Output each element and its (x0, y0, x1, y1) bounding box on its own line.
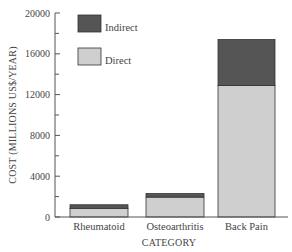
bar-segment-indirect (218, 40, 275, 86)
stacked-bar-chart: 040008000120001600020000 RheumatoidOsteo… (0, 0, 292, 252)
legend-item-direct: Direct (78, 48, 131, 66)
legend-label-direct: Direct (105, 55, 131, 66)
y-tick-label: 16000 (25, 48, 50, 59)
legend-swatch-direct (78, 48, 101, 65)
bar-segment-indirect (70, 205, 128, 209)
y-tick-label: 4000 (30, 171, 50, 182)
y-tick-label: 8000 (30, 130, 50, 141)
bar-rheumatoid (70, 205, 128, 217)
x-tick-label: Back Pain (225, 221, 269, 232)
bars (70, 40, 275, 217)
bar-segment-indirect (146, 194, 204, 198)
y-tick-label: 0 (45, 212, 50, 223)
y-tick-label: 20000 (25, 8, 50, 19)
bar-segment-direct (70, 208, 128, 217)
legend-label-indirect: Indirect (105, 22, 138, 33)
bar-osteoarthritis (146, 194, 204, 217)
legend-item-indirect: Indirect (78, 15, 138, 33)
y-tick-label: 12000 (25, 89, 50, 100)
legend: Indirect Direct (78, 15, 138, 66)
x-axis: RheumatoidOsteoarthritisBack Pain (55, 217, 288, 232)
bar-segment-direct (146, 197, 204, 217)
y-axis: 040008000120001600020000 (25, 8, 60, 223)
y-axis-title: COST (MILLIONS US$/YEAR) (7, 46, 19, 183)
x-tick-label: Rheumatoid (73, 221, 125, 232)
x-axis-title: CATEGORY (142, 237, 196, 248)
bar-back-pain (218, 40, 275, 217)
legend-swatch-indirect (78, 15, 101, 32)
bar-segment-direct (218, 85, 275, 217)
x-tick-label: Osteoarthritis (146, 221, 203, 232)
